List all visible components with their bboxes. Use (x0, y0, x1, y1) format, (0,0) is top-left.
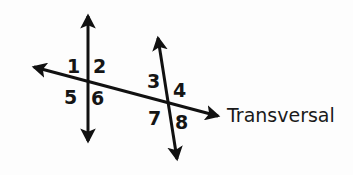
transversal-label: Transversal (227, 106, 335, 125)
angle-label-1: 1 (67, 57, 80, 76)
angle-label-5: 5 (64, 88, 77, 107)
angle-label-2: 2 (93, 57, 106, 76)
angle-label-3: 3 (147, 72, 160, 91)
angle-label-8: 8 (175, 113, 188, 132)
angle-label-7: 7 (148, 109, 161, 128)
angle-label-4: 4 (173, 81, 186, 100)
geometry-diagram: 1 2 3 4 5 6 7 8 Transversal (0, 0, 353, 175)
transversal-line (34, 67, 218, 116)
angle-label-6: 6 (91, 89, 104, 108)
